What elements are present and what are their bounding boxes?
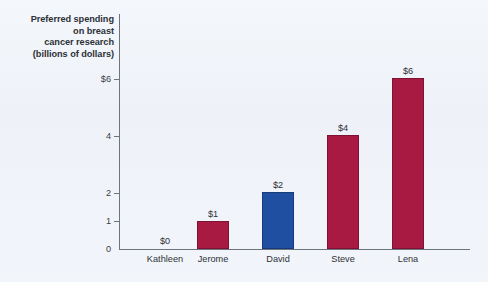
x-label-lena: Lena xyxy=(398,254,418,264)
y-axis-line xyxy=(119,14,120,250)
y-tick-label-4: 4 xyxy=(106,131,111,141)
y-axis-title-line-3: cancer research xyxy=(0,37,114,49)
bar-jerome: $1 xyxy=(197,221,229,250)
x-label-jerome: Jerome xyxy=(198,254,229,264)
y-tick-mark-4 xyxy=(114,136,119,137)
y-tick-mark-1 xyxy=(114,221,119,222)
x-label-kathleen: Kathleen xyxy=(147,254,183,264)
bar-lena: $6 xyxy=(392,78,424,249)
plot-area: $6 4 2 1 0 $0 $1 $2 $4 $6 xyxy=(119,14,470,250)
y-tick-label-2: 2 xyxy=(106,188,111,198)
y-axis-title-line-1: Preferred spending xyxy=(0,14,114,26)
x-label-david: David xyxy=(266,254,290,264)
y-tick-label-6: $6 xyxy=(101,74,111,84)
y-tick-mark-2 xyxy=(114,193,119,194)
x-axis-line xyxy=(119,249,470,250)
bar-steve: $4 xyxy=(327,135,359,249)
x-label-steve: Steve xyxy=(331,254,355,264)
bar-value-jerome: $1 xyxy=(208,209,218,219)
y-axis-title-line-2: on breast xyxy=(0,26,114,38)
y-axis-title-line-4: (billions of dollars) xyxy=(0,49,114,61)
y-tick-label-1: 1 xyxy=(106,216,111,226)
chart-canvas: Preferred spending on breast cancer rese… xyxy=(0,0,488,282)
y-tick-label-0: 0 xyxy=(106,244,111,254)
bar-value-kathleen: $0 xyxy=(160,236,170,246)
bar-david: $2 xyxy=(262,192,294,249)
bar-value-steve: $4 xyxy=(338,123,348,133)
bar-value-lena: $6 xyxy=(403,66,413,76)
y-tick-mark-6 xyxy=(114,79,119,80)
bar-value-david: $2 xyxy=(273,180,283,190)
y-axis-title: Preferred spending on breast cancer rese… xyxy=(0,14,114,60)
